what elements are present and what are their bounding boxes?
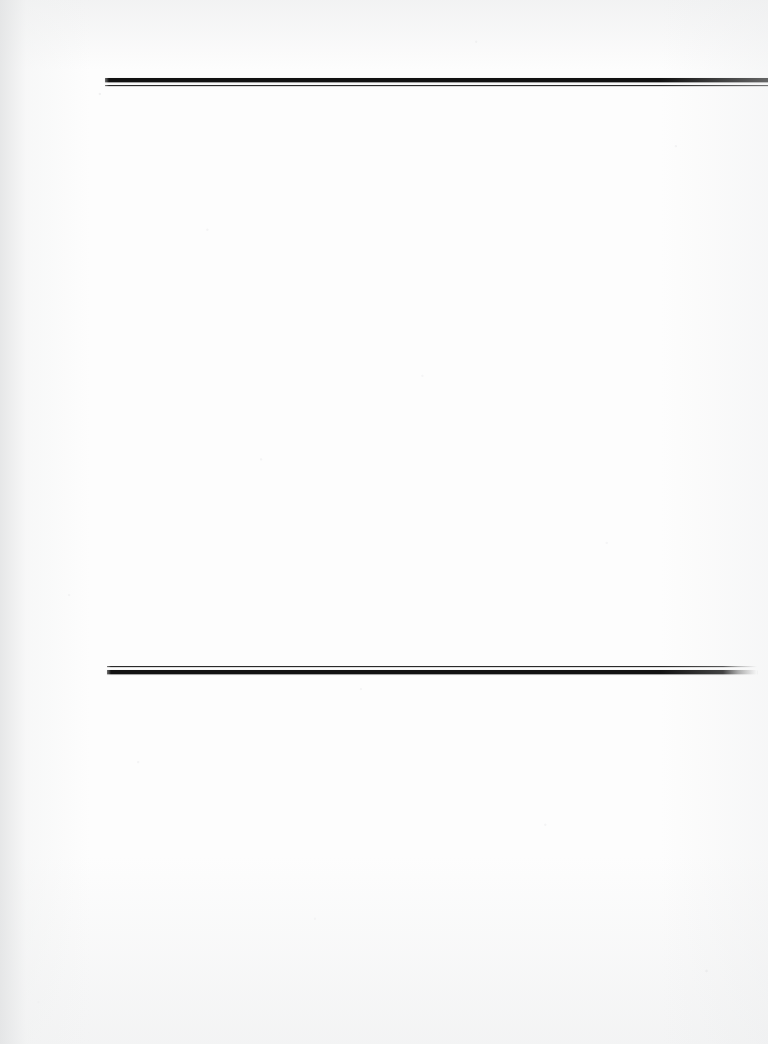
main-content-area: [105, 96, 728, 661]
footer-content-area: [105, 690, 728, 990]
scanned-page: [0, 0, 768, 1044]
